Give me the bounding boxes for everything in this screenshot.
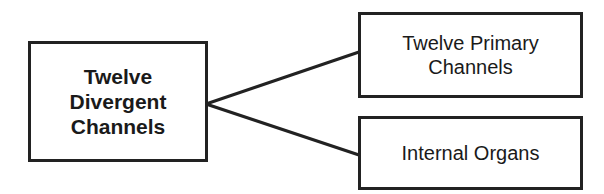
target-node-primary-channels: Twelve Primary Channels: [358, 12, 583, 98]
target-node-internal-organs: Internal Organs: [358, 116, 583, 190]
target-node-label: Internal Organs: [402, 141, 540, 165]
source-node-label: Twelve Divergent Channels: [70, 64, 167, 139]
connector-to-internal-organs: [206, 104, 359, 155]
target-node-label: Twelve Primary Channels: [402, 31, 539, 79]
source-node-divergent-channels: Twelve Divergent Channels: [28, 41, 208, 162]
connector-to-primary-channels: [206, 52, 359, 104]
